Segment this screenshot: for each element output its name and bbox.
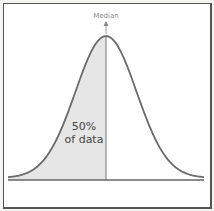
percent-value: 50%: [62, 120, 106, 133]
shaded-area-left-of-median: [8, 36, 106, 180]
median-label: Median: [86, 12, 126, 20]
median-arrow-icon: [104, 21, 109, 26]
percent-caption: of data: [62, 133, 106, 146]
percent-label: 50% of data: [62, 120, 106, 146]
bell-curve-chart: [0, 0, 214, 211]
